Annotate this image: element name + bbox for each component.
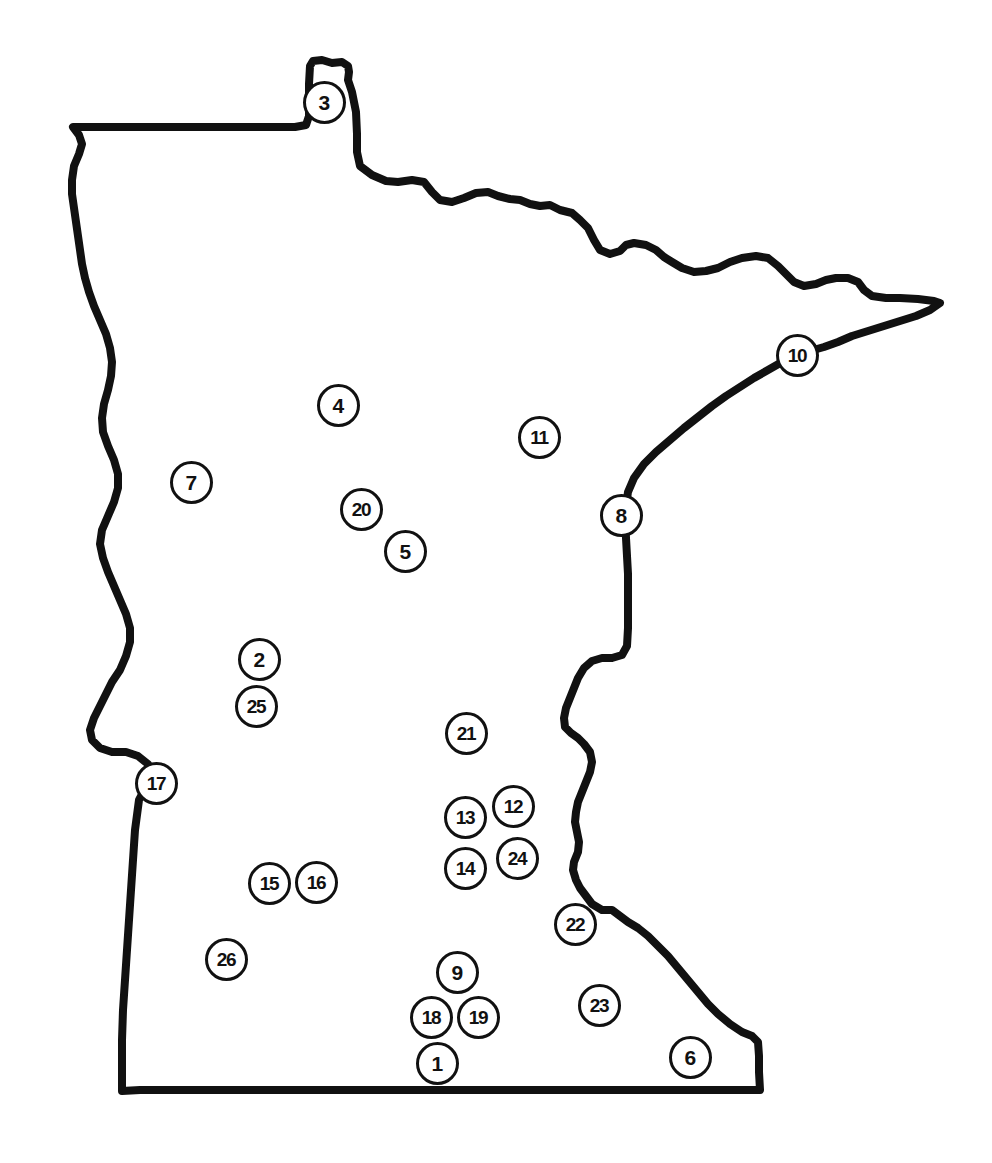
site-marker-25[interactable]: 25 (235, 685, 278, 728)
site-marker-22[interactable]: 22 (554, 903, 597, 946)
site-marker-label: 2 (253, 648, 264, 669)
site-marker-4[interactable]: 4 (317, 384, 360, 427)
site-marker-label: 26 (217, 949, 236, 968)
site-marker-label: 17 (147, 773, 166, 792)
site-marker-1[interactable]: 1 (416, 1042, 459, 1085)
site-marker-9[interactable]: 9 (436, 951, 479, 994)
site-marker-14[interactable]: 14 (444, 847, 487, 890)
site-marker-label: 9 (451, 961, 462, 982)
site-marker-label: 1 (431, 1052, 442, 1073)
site-marker-label: 15 (260, 873, 279, 892)
site-marker-label: 25 (247, 696, 266, 715)
site-marker-18[interactable]: 18 (410, 996, 453, 1039)
site-marker-label: 18 (422, 1007, 441, 1026)
site-marker-2[interactable]: 2 (238, 638, 281, 681)
site-marker-label: 12 (504, 796, 523, 815)
site-marker-label: 21 (457, 723, 476, 742)
site-marker-label: 13 (456, 807, 475, 826)
site-marker-label: 19 (469, 1007, 488, 1026)
site-marker-24[interactable]: 24 (496, 837, 539, 880)
site-marker-label: 8 (615, 504, 626, 525)
site-marker-6[interactable]: 6 (669, 1036, 712, 1079)
site-marker-16[interactable]: 16 (295, 861, 338, 904)
site-marker-layer: 3104117208522521171213241416152226923181… (0, 0, 992, 1163)
site-marker-label: 23 (590, 995, 609, 1014)
site-marker-label: 7 (185, 471, 196, 492)
site-marker-label: 10 (788, 345, 807, 364)
site-marker-21[interactable]: 21 (445, 712, 488, 755)
site-marker-label: 3 (318, 91, 329, 112)
site-marker-label: 6 (684, 1046, 695, 1067)
site-marker-label: 16 (307, 872, 326, 891)
site-marker-19[interactable]: 19 (457, 996, 500, 1039)
site-marker-10[interactable]: 10 (776, 334, 819, 377)
site-marker-17[interactable]: 17 (135, 762, 178, 805)
site-marker-label: 5 (399, 540, 410, 561)
site-marker-label: 20 (352, 499, 371, 518)
site-marker-label: 4 (332, 394, 343, 415)
site-marker-7[interactable]: 7 (170, 461, 213, 504)
site-marker-15[interactable]: 15 (248, 862, 291, 905)
site-marker-13[interactable]: 13 (444, 796, 487, 839)
minnesota-site-map: 3104117208522521171213241416152226923181… (0, 0, 992, 1163)
site-marker-8[interactable]: 8 (600, 494, 643, 537)
site-marker-label: 11 (530, 427, 548, 446)
site-marker-label: 24 (508, 848, 527, 867)
site-marker-label: 14 (456, 858, 475, 877)
site-marker-11[interactable]: 11 (518, 416, 561, 459)
site-marker-20[interactable]: 20 (340, 488, 383, 531)
site-marker-23[interactable]: 23 (578, 984, 621, 1027)
site-marker-5[interactable]: 5 (384, 530, 427, 573)
site-marker-26[interactable]: 26 (205, 938, 248, 981)
site-marker-12[interactable]: 12 (492, 785, 535, 828)
site-marker-label: 22 (566, 914, 585, 933)
site-marker-3[interactable]: 3 (303, 81, 346, 124)
